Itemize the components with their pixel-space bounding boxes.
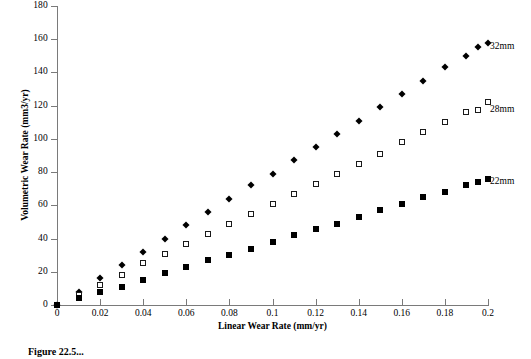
data-point-28mm	[270, 201, 276, 207]
figure-caption: Figure 22.5...	[28, 346, 84, 359]
data-point-28mm	[140, 260, 146, 266]
data-point-32mm	[183, 222, 190, 229]
data-point-22mm	[54, 302, 60, 308]
data-point-32mm	[355, 117, 362, 124]
data-point-32mm	[441, 64, 448, 71]
data-point-22mm	[97, 289, 103, 295]
data-point-22mm	[420, 194, 426, 200]
x-tick-label: 0.16	[382, 308, 422, 318]
data-point-32mm	[291, 157, 298, 164]
x-tick-mark	[186, 299, 187, 306]
data-point-22mm	[226, 252, 232, 258]
data-point-32mm	[118, 262, 125, 269]
x-tick-mark	[143, 299, 144, 306]
data-point-32mm	[420, 77, 427, 84]
x-tick-label: 0.18	[425, 308, 465, 318]
x-tick-mark	[402, 299, 403, 306]
x-tick-mark	[100, 299, 101, 306]
legend-marker-icon	[475, 179, 481, 185]
y-axis-line	[57, 6, 58, 306]
data-point-22mm	[463, 182, 469, 188]
data-point-32mm	[398, 90, 405, 97]
y-tick-mark	[51, 239, 58, 240]
y-axis-title: Volumetric Wear Rate (mm3/yr)	[20, 70, 30, 240]
x-tick-mark	[229, 299, 230, 306]
data-point-22mm	[442, 189, 448, 195]
x-tick-mark	[273, 299, 274, 306]
data-point-28mm	[162, 251, 168, 257]
data-point-32mm	[97, 275, 104, 282]
data-point-22mm	[119, 284, 125, 290]
data-point-28mm	[226, 221, 232, 227]
x-tick-label: 0.06	[166, 308, 206, 318]
legend-marker-icon	[474, 43, 481, 50]
x-tick-mark	[359, 299, 360, 306]
x-tick-label: 0.2	[468, 308, 508, 318]
x-axis-title: Linear Wear Rate (mm/yr)	[57, 321, 488, 331]
data-point-28mm	[313, 181, 319, 187]
data-point-28mm	[183, 241, 189, 247]
data-point-28mm	[119, 272, 125, 278]
y-tick-mark	[51, 106, 58, 107]
x-tick-label: 0.02	[80, 308, 120, 318]
data-point-22mm	[140, 277, 146, 283]
legend-label: 28mm	[490, 104, 514, 114]
y-tick-label: 180	[22, 1, 48, 11]
y-tick-mark	[51, 39, 58, 40]
data-point-28mm	[356, 161, 362, 167]
data-point-28mm	[442, 119, 448, 125]
legend-marker-icon	[475, 107, 481, 113]
y-tick-mark	[51, 205, 58, 206]
y-tick-label: 160	[22, 34, 48, 44]
legend-label: 22mm	[490, 176, 514, 186]
y-tick-mark	[51, 6, 58, 7]
y-tick-mark	[51, 72, 58, 73]
data-point-28mm	[248, 211, 254, 217]
x-tick-label: 0.12	[296, 308, 336, 318]
x-tick-label: 0.04	[123, 308, 163, 318]
data-point-32mm	[247, 182, 254, 189]
data-point-28mm	[420, 129, 426, 135]
data-point-28mm	[463, 109, 469, 115]
data-point-22mm	[205, 257, 211, 263]
data-point-22mm	[291, 232, 297, 238]
y-tick-mark	[51, 272, 58, 273]
data-point-22mm	[248, 246, 254, 252]
data-point-32mm	[312, 144, 319, 151]
data-point-22mm	[270, 239, 276, 245]
x-tick-label: 0.1	[253, 308, 293, 318]
legend-label: 32mm	[490, 41, 514, 51]
data-point-22mm	[334, 221, 340, 227]
data-point-32mm	[334, 130, 341, 137]
y-tick-mark	[51, 172, 58, 173]
data-point-32mm	[161, 235, 168, 242]
data-point-22mm	[356, 214, 362, 220]
data-point-22mm	[162, 270, 168, 276]
data-point-32mm	[226, 195, 233, 202]
data-point-28mm	[377, 151, 383, 157]
data-point-32mm	[204, 208, 211, 215]
data-point-32mm	[140, 248, 147, 255]
data-point-32mm	[377, 104, 384, 111]
data-point-28mm	[205, 231, 211, 237]
y-tick-mark	[51, 139, 58, 140]
x-tick-label: 0.14	[339, 308, 379, 318]
x-tick-mark	[445, 299, 446, 306]
data-point-28mm	[399, 139, 405, 145]
x-tick-mark	[316, 299, 317, 306]
x-tick-label: 0	[37, 308, 77, 318]
data-point-32mm	[463, 52, 470, 59]
x-tick-mark	[488, 299, 489, 306]
y-tick-label: 20	[22, 267, 48, 277]
data-point-22mm	[183, 264, 189, 270]
data-point-32mm	[269, 170, 276, 177]
data-point-28mm	[291, 191, 297, 197]
x-tick-label: 0.08	[209, 308, 249, 318]
data-point-22mm	[377, 207, 383, 213]
data-point-28mm	[334, 171, 340, 177]
data-point-22mm	[76, 295, 82, 301]
data-point-22mm	[313, 226, 319, 232]
data-point-22mm	[399, 201, 405, 207]
data-point-28mm	[97, 282, 103, 288]
wear-rate-scatter-chart: 020406080100120140160180 00.020.040.060.…	[0, 0, 531, 359]
